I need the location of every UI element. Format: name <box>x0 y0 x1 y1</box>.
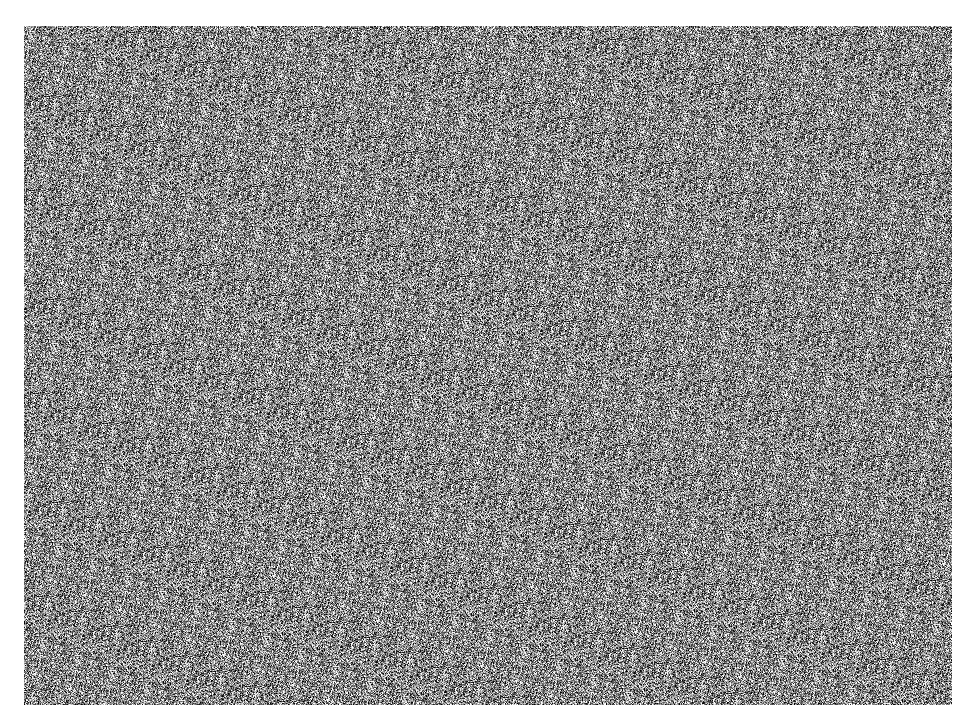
punch-hole-left <box>404 0 428 24</box>
noise-texture-canvas <box>24 26 952 705</box>
punch-hole-right <box>562 0 586 24</box>
figure-caption <box>24 713 944 722</box>
